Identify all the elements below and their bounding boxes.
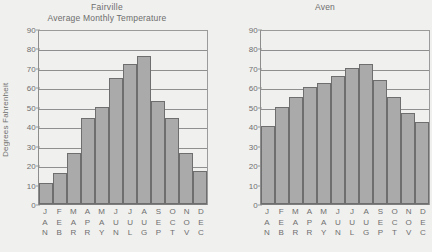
x-tick-label: AUG: [359, 207, 373, 239]
y-tick-label: 80: [16, 45, 36, 54]
y-tick-label: 20: [238, 162, 258, 171]
x-tick-label: APR: [303, 207, 317, 239]
plot-area-wrapper-2: 0102030405060708090: [260, 30, 430, 205]
y-tick-label: 10: [238, 181, 258, 190]
y-axis-ticks-2: 0102030405060708090: [238, 30, 258, 205]
bar-nov: [179, 153, 193, 204]
x-axis-labels: JANFEBMARAPRMAYJUNJULAUGSEPOCTNOVDEC: [38, 207, 208, 239]
bar-slot: [345, 31, 359, 204]
bar-mar: [289, 97, 303, 204]
x-tick-label: MAR: [288, 207, 302, 239]
y-tick-label: 20: [16, 162, 36, 171]
chart-title: Fairville: [0, 2, 214, 13]
chart-title-block: Fairville Average Monthly Temperature: [0, 2, 214, 24]
bar-aug: [359, 64, 373, 204]
bar-nov: [401, 113, 415, 204]
bar-series: [39, 31, 207, 204]
y-tick-label: 30: [238, 142, 258, 151]
bar-series-2: [261, 31, 429, 204]
x-tick-label: NOV: [402, 207, 416, 239]
bar-aug: [137, 56, 151, 204]
bar-slot: [151, 31, 165, 204]
x-tick-label: JUN: [109, 207, 123, 239]
y-tick-label: 80: [238, 45, 258, 54]
bar-sep: [151, 101, 165, 204]
y-tick-label: 90: [238, 26, 258, 35]
x-tick-label: NOV: [180, 207, 194, 239]
x-tick-label: FEB: [52, 207, 66, 239]
x-tick-label: MAY: [95, 207, 109, 239]
y-tick-label: 60: [238, 84, 258, 93]
x-tick-label: MAY: [317, 207, 331, 239]
x-tick-label: DEC: [416, 207, 430, 239]
bar-slot: [303, 31, 317, 204]
bar-jun: [109, 78, 123, 204]
bar-jan: [39, 183, 53, 204]
bar-slot: [179, 31, 193, 204]
x-tick-label: JAN: [38, 207, 52, 239]
x-tick-label: JUL: [345, 207, 359, 239]
x-tick-label: AUG: [137, 207, 151, 239]
bar-oct: [165, 118, 179, 204]
bar-slot: [373, 31, 387, 204]
bar-slot: [401, 31, 415, 204]
x-tick-label: JUN: [331, 207, 345, 239]
bar-jul: [345, 68, 359, 204]
y-tick-label: 40: [238, 123, 258, 132]
bar-slot: [81, 31, 95, 204]
bar-slot: [289, 31, 303, 204]
chart-second: Aven 0102030405060708090 JANFEBMARAPRMAY…: [218, 0, 432, 252]
bar-slot: [137, 31, 151, 204]
x-axis-line-2: [261, 204, 429, 206]
y-tick-label: 90: [16, 26, 36, 35]
bar-slot: [261, 31, 275, 204]
bar-sep: [373, 80, 387, 204]
chart-title-block-2: Aven: [218, 2, 432, 13]
bar-slot: [331, 31, 345, 204]
y-tick-label: 70: [238, 64, 258, 73]
chart-subtitle: Average Monthly Temperature: [0, 13, 214, 24]
x-tick-label: APR: [81, 207, 95, 239]
y-tick-label: 50: [238, 103, 258, 112]
x-tick-label: MAR: [66, 207, 80, 239]
bar-jun: [331, 76, 345, 204]
bar-slot: [67, 31, 81, 204]
bar-slot: [165, 31, 179, 204]
x-tick-label: SEP: [151, 207, 165, 239]
bar-slot: [123, 31, 137, 204]
y-axis-label: Degrees Fahrenheit: [1, 60, 15, 180]
x-tick-label: JUL: [123, 207, 137, 239]
bar-slot: [53, 31, 67, 204]
bar-slot: [39, 31, 53, 204]
chart-fairville: Fairville Average Monthly Temperature De…: [0, 0, 214, 252]
x-tick-label: OCT: [166, 207, 180, 239]
bar-dec: [193, 171, 207, 204]
bar-jul: [123, 64, 137, 204]
bar-feb: [275, 107, 289, 204]
bar-slot: [95, 31, 109, 204]
y-tick-label: 10: [16, 181, 36, 190]
y-tick-label: 70: [16, 64, 36, 73]
x-axis-line: [39, 204, 207, 206]
chart-subtitle-2: Aven: [218, 2, 432, 13]
plot-area-wrapper: 0102030405060708090: [38, 30, 208, 205]
y-axis-ticks: 0102030405060708090: [16, 30, 36, 205]
bar-dec: [415, 122, 429, 204]
bar-slot: [317, 31, 331, 204]
x-tick-label: JAN: [260, 207, 274, 239]
y-tick-label: 0: [16, 201, 36, 210]
plot-area: [38, 30, 208, 205]
bar-slot: [415, 31, 429, 204]
bar-may: [95, 107, 109, 204]
bar-may: [317, 83, 331, 204]
x-tick-label: OCT: [388, 207, 402, 239]
x-axis-labels-2: JANFEBMARAPRMAYJUNJULAUGSEPOCTNOVDEC: [260, 207, 430, 239]
x-tick-label: DEC: [194, 207, 208, 239]
x-tick-label: SEP: [373, 207, 387, 239]
bar-slot: [109, 31, 123, 204]
bar-mar: [67, 153, 81, 204]
y-tick-label: 40: [16, 123, 36, 132]
bar-oct: [387, 97, 401, 204]
plot-area-2: [260, 30, 430, 205]
